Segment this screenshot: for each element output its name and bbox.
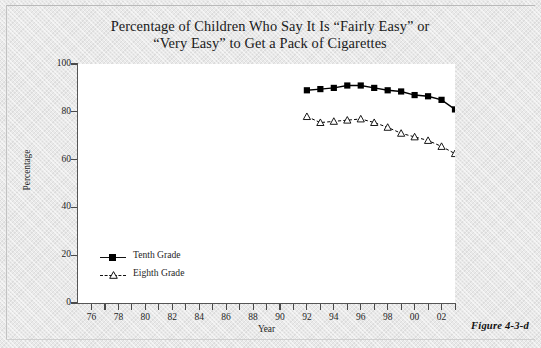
x-axis-tick-label: 76 bbox=[78, 312, 104, 322]
x-axis-tick-label: 02 bbox=[429, 312, 455, 322]
x-axis-tick-label: 88 bbox=[240, 312, 266, 322]
data-point-marker-triangle bbox=[451, 150, 455, 157]
x-axis-tick-label: 92 bbox=[294, 312, 320, 322]
y-axis-tick bbox=[71, 302, 77, 303]
x-axis-tick-label: 98 bbox=[375, 312, 401, 322]
x-axis-tick-label: 78 bbox=[105, 312, 131, 322]
data-point-marker-square bbox=[317, 86, 323, 92]
data-point-marker-square bbox=[304, 87, 310, 93]
x-axis-tick bbox=[91, 304, 92, 310]
x-axis-tick-label: 90 bbox=[267, 312, 293, 322]
data-point-marker-triangle bbox=[330, 118, 337, 125]
data-point-marker-square bbox=[358, 82, 364, 88]
y-axis-tick bbox=[71, 63, 77, 64]
x-axis-tick bbox=[374, 304, 375, 310]
x-axis-tick bbox=[401, 304, 402, 310]
x-axis-tick bbox=[226, 304, 227, 310]
x-axis-tick bbox=[455, 304, 456, 310]
legend-label-tenth-grade: Tenth Grade bbox=[133, 249, 181, 260]
x-axis-tick bbox=[253, 304, 254, 310]
y-axis-title: Percentage bbox=[22, 125, 32, 215]
x-axis-tick-label: 96 bbox=[348, 312, 374, 322]
series-tenth-grade bbox=[304, 82, 455, 112]
data-point-marker-triangle bbox=[303, 113, 310, 120]
legend-item-tenth-grade: Tenth Grade bbox=[100, 250, 220, 268]
legend-swatch-filled-square-icon bbox=[100, 257, 126, 259]
data-point-marker-square bbox=[425, 93, 431, 99]
x-axis-title: Year bbox=[78, 324, 455, 334]
data-point-marker-square bbox=[412, 92, 418, 98]
data-point-marker-square bbox=[371, 85, 377, 91]
x-axis-tick bbox=[279, 304, 280, 310]
x-axis-tick bbox=[158, 304, 159, 310]
frame-left-rule bbox=[6, 5, 7, 340]
x-axis-tick-label: 94 bbox=[321, 312, 347, 322]
x-axis-tick bbox=[172, 304, 173, 310]
legend-item-eighth-grade: Eighth Grade bbox=[100, 268, 220, 286]
x-axis-tick bbox=[360, 304, 361, 310]
data-point-marker-square bbox=[452, 106, 455, 112]
x-axis-tick bbox=[293, 304, 294, 310]
frame-bottom-rule bbox=[6, 339, 535, 340]
frame-top-rule bbox=[6, 5, 535, 6]
data-point-marker-square bbox=[398, 88, 404, 94]
x-axis-tick bbox=[333, 304, 334, 310]
x-axis-tick bbox=[239, 304, 240, 310]
x-axis-tick bbox=[441, 304, 442, 310]
y-axis-tick-label: 80 bbox=[33, 106, 71, 118]
legend-swatch-open-triangle-icon bbox=[100, 275, 126, 277]
data-point-marker-square bbox=[331, 85, 337, 91]
data-point-marker-triangle bbox=[357, 115, 364, 122]
chart-legend: Tenth Grade Eighth Grade bbox=[100, 250, 220, 286]
x-axis-tick bbox=[104, 304, 105, 310]
x-axis-tick bbox=[131, 304, 132, 310]
figure-caption: Figure 4-3-d bbox=[471, 320, 529, 331]
x-axis-tick bbox=[266, 304, 267, 310]
legend-label-eighth-grade: Eighth Grade bbox=[133, 267, 184, 278]
data-point-marker-square bbox=[344, 82, 350, 88]
y-axis-tick bbox=[71, 159, 77, 160]
series-line bbox=[307, 117, 455, 154]
x-axis-tick bbox=[145, 304, 146, 310]
data-point-marker-triangle bbox=[398, 130, 405, 137]
x-axis-tick bbox=[185, 304, 186, 310]
y-axis-tick-label: 60 bbox=[33, 154, 71, 166]
series-line bbox=[307, 86, 455, 110]
data-point-marker-triangle bbox=[424, 137, 431, 144]
x-axis-tick-label: 86 bbox=[213, 312, 239, 322]
x-axis-tick-label: 84 bbox=[186, 312, 212, 322]
x-axis-tick bbox=[199, 304, 200, 310]
data-point-marker-triangle bbox=[384, 124, 391, 131]
data-point-marker-triangle bbox=[438, 143, 445, 150]
x-axis-tick bbox=[118, 304, 119, 310]
data-point-marker-square bbox=[385, 87, 391, 93]
series-eighth-grade bbox=[303, 113, 455, 157]
x-axis-tick bbox=[387, 304, 388, 310]
y-axis-tick bbox=[71, 111, 77, 112]
x-axis-tick-label: 80 bbox=[132, 312, 158, 322]
y-axis-tick-label: 0 bbox=[33, 297, 71, 309]
x-axis-tick bbox=[306, 304, 307, 310]
y-axis-tick-label: 100 bbox=[33, 58, 71, 70]
y-axis-tick-label: 40 bbox=[33, 201, 71, 213]
y-axis-tick bbox=[71, 207, 77, 208]
y-axis-tick bbox=[71, 255, 77, 256]
x-axis-tick-label: 00 bbox=[402, 312, 428, 322]
figure-container: Percentage of Children Who Say It Is “Fa… bbox=[0, 0, 541, 348]
x-axis-tick-label: 82 bbox=[159, 312, 185, 322]
x-axis-tick bbox=[212, 304, 213, 310]
x-axis-tick bbox=[320, 304, 321, 310]
chart-title: Percentage of Children Who Say It Is “Fa… bbox=[40, 18, 500, 52]
y-axis-line bbox=[77, 63, 78, 304]
x-axis-tick bbox=[414, 304, 415, 310]
x-axis-tick bbox=[428, 304, 429, 310]
x-axis-tick bbox=[347, 304, 348, 310]
y-axis-tick-label: 20 bbox=[33, 249, 71, 261]
data-point-marker-square bbox=[438, 97, 444, 103]
